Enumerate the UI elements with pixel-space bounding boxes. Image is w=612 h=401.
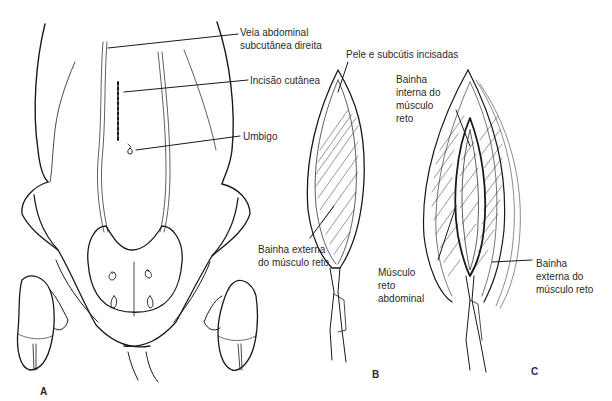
surgical-illustration — [0, 0, 612, 401]
label-incisao-cutanea: Incisão cutânea — [250, 74, 320, 87]
label-umbigo: Umbigo — [243, 130, 277, 143]
label-musculo-reto-abdominal: Músculo reto abdominal — [378, 266, 424, 305]
panel-b-drawing — [307, 62, 364, 362]
label-pele-subcutis: Pele e subcútis incisadas — [346, 48, 458, 61]
label-bainha-externa-b: Bainha externa do músculo reto — [258, 243, 329, 269]
label-bainha-interna: Bainha interna do músculo reto — [396, 73, 440, 125]
panel-label-b: B — [372, 369, 379, 380]
label-bainha-externa-c: Bainha externa do músculo reto — [536, 257, 593, 296]
panel-a-drawing — [18, 22, 258, 382]
panel-label-a: A — [40, 386, 47, 397]
label-veia-abdominal: Veia abdominal subcutânea direita — [240, 26, 322, 52]
panel-label-c: C — [531, 366, 538, 377]
